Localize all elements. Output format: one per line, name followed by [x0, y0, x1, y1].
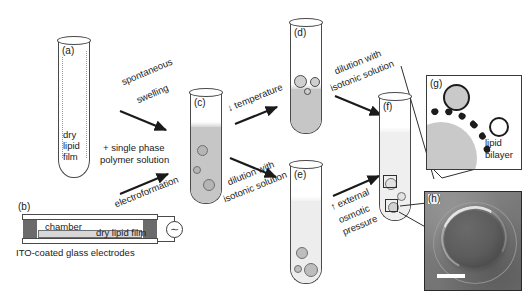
panel-tag-d: (d) — [294, 28, 306, 38]
wire-bottom — [157, 241, 175, 242]
vesicle — [304, 88, 311, 95]
spacer-block-left — [23, 220, 37, 238]
label-lipid-bilayer-line1: lipid — [485, 138, 502, 149]
scale-bar — [437, 274, 465, 278]
panel-tag-e: (e) — [294, 170, 306, 180]
tube-c-rim — [189, 88, 223, 97]
tube-d-rim — [289, 18, 323, 27]
panel-tag-g: (g) — [430, 79, 442, 89]
vesicle — [304, 263, 318, 277]
test-tube-e — [290, 164, 322, 284]
tube-e-body — [290, 164, 322, 284]
vesicle — [296, 247, 308, 259]
panel-g-lipid-bilayer-zoom: lipid bilayer — [426, 75, 522, 170]
small-vesicle-empty — [489, 117, 509, 137]
ac-source-icon: ∼ — [166, 221, 183, 238]
tube-f-rim — [378, 92, 412, 101]
wire-top — [157, 216, 175, 217]
test-tube-c — [190, 92, 222, 204]
tube-d-body — [290, 22, 322, 134]
label-chamber: chamber — [45, 222, 82, 233]
label-dry-lipid-film-chamber: dry lipid film — [96, 228, 146, 239]
vesicle — [294, 75, 307, 88]
vesicle — [203, 179, 215, 191]
label-spontaneous-swelling-line2: swelling — [135, 83, 170, 106]
figure-canvas: (a) dry lipid film ∼ (b) chamber dry lip… — [0, 0, 525, 298]
label-single-phase-line1: + single phase — [103, 143, 165, 154]
vesicle — [193, 166, 201, 174]
panel-tag-b: (b) — [18, 202, 30, 212]
label-ito-electrodes: ITO-coated glass electrodes — [16, 248, 135, 259]
panel-tag-c: (c) — [194, 98, 206, 108]
tube-e-rim — [289, 160, 323, 169]
small-vesicle-filled — [443, 84, 470, 111]
vesicle — [294, 265, 302, 273]
vesicle — [310, 77, 320, 87]
label-dry-lipid-film-a-line3: film — [63, 152, 78, 163]
tube-e-meniscus — [291, 196, 321, 203]
panel-tag-h: (h) — [428, 194, 440, 204]
tube-a-rim — [57, 36, 91, 45]
vesicle — [197, 145, 208, 156]
label-single-phase-line2: polymer solution — [100, 155, 169, 166]
panel-tag-a: (a) — [62, 46, 74, 56]
lipid-film-right-icon — [86, 51, 87, 158]
tube-d-dense-phase — [291, 89, 321, 133]
arrow-spontaneous-swelling — [118, 108, 176, 136]
tube-c-body — [190, 92, 222, 204]
test-tube-d — [290, 22, 322, 134]
label-lipid-bilayer-line2: bilayer — [485, 150, 513, 161]
tube-c-meniscus — [191, 122, 221, 129]
tube-c-polymer-fill — [191, 127, 221, 203]
panel-h-micrograph — [424, 191, 522, 291]
